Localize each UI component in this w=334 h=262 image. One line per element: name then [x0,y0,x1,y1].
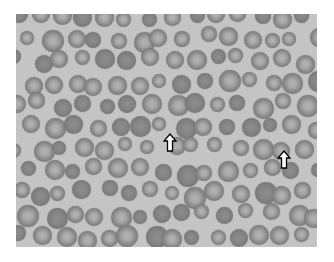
red-blood-cell [85,158,102,175]
up-arrow-icon [163,133,177,152]
red-blood-cell [54,99,72,117]
red-blood-cell [131,77,149,95]
red-blood-cell [194,118,212,136]
red-blood-cell [197,73,213,89]
red-blood-cell [16,182,30,198]
red-blood-cell [95,14,114,27]
red-blood-cell [108,158,128,178]
red-blood-cell [204,181,224,201]
red-blood-cell [95,49,115,69]
red-blood-cell [211,49,226,64]
red-blood-cell [173,204,190,221]
blood-smear-micrograph [16,14,317,247]
red-blood-cell [273,49,291,67]
red-blood-cell [272,186,291,205]
red-blood-cell [155,164,172,181]
red-blood-cell [294,227,309,242]
red-blood-cell [265,33,280,48]
red-blood-cell [65,164,80,179]
red-blood-cell [100,99,115,114]
red-blood-cell [22,115,40,133]
red-blood-cell [16,95,26,113]
red-blood-cell [270,226,289,245]
red-blood-cell [75,138,94,157]
red-blood-cell [21,161,36,176]
red-blood-cell [45,160,65,180]
red-blood-cell [282,73,303,94]
red-blood-cell [308,71,317,92]
red-blood-cell [116,14,131,27]
red-blood-cell [165,186,179,200]
red-blood-cell [133,210,147,224]
red-blood-cell [64,115,83,134]
red-blood-cell [16,143,21,158]
red-blood-cell [296,55,315,74]
red-blood-cell [140,140,154,154]
red-blood-cell [130,116,151,137]
red-blood-cell [219,27,238,46]
red-blood-cell [52,141,66,155]
red-blood-cell [187,50,207,70]
red-blood-cell [184,230,199,245]
red-blood-cell [194,204,209,219]
red-blood-cell [152,117,166,131]
red-blood-cell [311,163,317,177]
red-blood-cell [95,141,114,160]
red-blood-cell [85,208,103,226]
red-blood-cell [263,118,277,132]
red-blood-cell [242,72,257,87]
up-arrow-icon [277,150,291,169]
red-blood-cell [16,225,26,241]
red-blood-cell [31,187,50,206]
red-blood-cell [73,14,92,27]
red-blood-cell [255,14,271,24]
red-blood-cell [116,225,138,247]
red-blood-cell [294,14,309,23]
red-blood-cell [201,26,217,42]
red-blood-cell [275,93,291,109]
red-blood-cell [117,51,136,70]
red-blood-cell [253,139,274,160]
red-blood-cell [308,122,317,139]
red-blood-cell [50,50,68,68]
red-blood-cell [297,95,317,117]
red-blood-cell [210,97,225,112]
red-blood-cell [68,30,86,48]
red-blood-cell [244,31,262,49]
red-blood-cell [183,137,198,152]
red-blood-cell [47,208,68,229]
red-blood-cell [142,181,158,197]
red-blood-cell [243,163,258,178]
red-blood-cell [45,118,66,139]
red-blood-cell [174,31,190,47]
red-blood-cell [219,70,241,92]
red-blood-cell [131,158,149,176]
red-blood-cell [118,95,136,113]
red-blood-cell [20,31,34,45]
red-blood-cell [295,140,314,159]
red-blood-cell [17,205,39,227]
red-blood-cell [162,229,182,247]
red-blood-cell [84,78,102,96]
red-blood-cell [273,14,292,29]
red-blood-cell [118,137,132,151]
red-blood-cell [263,203,280,220]
red-blood-cell [53,14,72,25]
red-blood-cell [229,95,245,111]
red-blood-cell [67,206,84,223]
red-blood-cell [75,50,90,65]
red-blood-cell [207,137,222,152]
red-blood-cell [141,48,159,66]
red-blood-cell [207,14,225,23]
red-blood-cell [57,227,77,247]
red-blood-cell [211,230,226,245]
red-blood-cell [102,180,118,196]
red-blood-cell [74,95,91,112]
red-blood-cell [238,203,253,218]
red-blood-cell [108,76,127,95]
red-blood-cell [16,14,28,23]
red-blood-cell [16,49,21,64]
red-blood-cell [149,29,167,47]
red-blood-cell [153,205,171,223]
red-blood-cell [166,51,184,69]
